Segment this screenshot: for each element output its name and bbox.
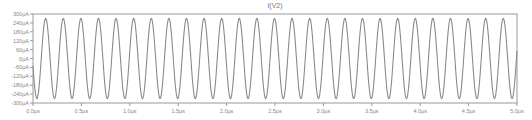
x-tick-label: 1.5µs <box>171 108 185 114</box>
y-tick-label: -180µA <box>11 82 29 88</box>
x-tick-label: 2.0µs <box>220 108 234 114</box>
y-tick-label: 60µA <box>16 47 29 53</box>
x-tick-label: 1.0µs <box>123 108 137 114</box>
x-tick-label: 5.0µs <box>510 108 524 114</box>
y-axis: 300µA240µA180µA120µA60µA0µA-60µA-120µA-1… <box>11 11 33 106</box>
x-tick-label: 3.5µs <box>365 108 379 114</box>
waveform-chart: I(V2) 300µA240µA180µA120µA60µA0µA-60µA-1… <box>0 0 532 120</box>
x-axis: 0.0µs0.5µs1.0µs1.5µs2.0µs2.5µs3.0µs3.5µs… <box>26 103 524 114</box>
y-tick-label: 0µA <box>19 56 29 62</box>
y-tick-label: 180µA <box>13 29 29 35</box>
chart-title: I(V2) <box>267 2 282 10</box>
y-tick-label: 240µA <box>13 20 29 26</box>
x-tick-label: 0.0µs <box>26 108 40 114</box>
x-tick-label: 4.0µs <box>413 108 427 114</box>
y-tick-label: 120µA <box>13 38 29 44</box>
trace-i-v2 <box>33 18 517 98</box>
y-tick-label: -120µA <box>11 73 29 79</box>
x-tick-label: 4.5µs <box>462 108 476 114</box>
y-tick-label: -240µA <box>11 91 29 97</box>
x-tick-label: 3.0µs <box>317 108 331 114</box>
y-tick-label: -60µA <box>14 64 29 70</box>
y-tick-label: -300µA <box>11 100 29 106</box>
x-tick-label: 2.5µs <box>268 108 282 114</box>
y-tick-label: 300µA <box>13 11 29 17</box>
x-tick-label: 0.5µs <box>75 108 89 114</box>
